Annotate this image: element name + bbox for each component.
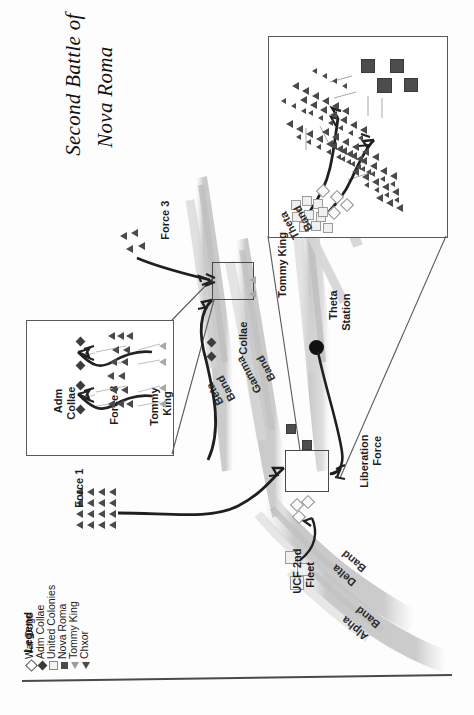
inset-right-marker-chxor xyxy=(350,152,357,160)
force-1-marker xyxy=(98,510,105,518)
liberation-force-label-line2: Force xyxy=(358,436,396,478)
inset-left-marker-tommy-king xyxy=(159,400,166,408)
map-page: Second Battle of Nova Roma Adm Collae Fo… xyxy=(0,0,474,715)
inset-right-marker-chxor xyxy=(348,130,353,136)
inset-right-marker-chxor xyxy=(301,108,306,114)
inset-right-marker-chxor xyxy=(332,102,339,110)
force-1-marker xyxy=(109,521,116,529)
inset-left-marker-force3 xyxy=(121,386,128,394)
inset-right-marker-chxor xyxy=(342,138,349,146)
force-1-marker xyxy=(109,510,116,518)
inset-right-marker-chxor xyxy=(328,120,333,126)
inset-right-marker-chxor xyxy=(382,183,389,191)
inset-right-marker-chxor xyxy=(380,167,387,175)
inset-right-marker-chxor xyxy=(340,116,347,124)
inset-right-marker-chxor xyxy=(390,181,395,187)
force-1-marker xyxy=(98,499,105,507)
collae-marker xyxy=(207,338,217,348)
theta-station-marker xyxy=(309,340,324,355)
inset-right-marker-chxor xyxy=(330,142,337,150)
inset-right-marker-chxor xyxy=(342,83,347,89)
inset-right-marker-chxor xyxy=(358,135,363,141)
inset-right-marker-nova-roma xyxy=(404,78,418,92)
theta-station-text-2: Station xyxy=(340,293,352,330)
inset-right-marker-chxor xyxy=(306,139,311,145)
inset-left-marker-force3 xyxy=(117,400,124,408)
inset-left-marker-force3 xyxy=(110,358,117,366)
inset-left-marker-force3 xyxy=(110,386,117,394)
inset-right-marker-chxor xyxy=(372,178,379,186)
force-3-marker xyxy=(120,232,127,240)
inset-right-marker-chxor xyxy=(312,68,317,74)
force-1-marker xyxy=(76,521,83,529)
inset-right-marker-nova-roma xyxy=(361,59,375,73)
inset-right-marker-nova-roma xyxy=(377,78,392,93)
force-1-marker xyxy=(109,499,116,507)
inset-left-marker-force3 xyxy=(117,332,124,340)
page-title-line2: Nova Roma xyxy=(93,47,117,148)
inset-right-marker-chxor xyxy=(384,192,389,198)
inset-right-marker-chxor xyxy=(386,199,393,207)
engagement-box-lower xyxy=(285,450,329,492)
inset-right-marker-chxor xyxy=(281,98,286,104)
war-dogs-marker xyxy=(292,510,306,524)
inset-right-marker-chxor xyxy=(332,133,339,141)
force-1-marker xyxy=(87,521,94,529)
inset-right-marker-chxor xyxy=(300,96,307,104)
inset-right-marker-chxor xyxy=(352,143,359,151)
inset-right-marker-chxor xyxy=(292,82,299,90)
inset-right-marker-chxor xyxy=(362,173,369,181)
inset-left-marker-tommy-king xyxy=(159,342,166,350)
collae-marker xyxy=(207,352,217,362)
inset-right-marker-chxor xyxy=(374,187,379,193)
inset-right-marker-chxor xyxy=(322,128,329,136)
inset-right-marker-chxor xyxy=(350,161,355,167)
inset-right-marker-chxor xyxy=(316,135,323,143)
inset-right-marker-nova-roma xyxy=(390,59,404,73)
legend-item-label: Chxor xyxy=(78,631,90,659)
inset-right-marker-chxor xyxy=(296,134,301,140)
inset-left-marker-force3 xyxy=(107,372,114,380)
inset-right-marker-chxor xyxy=(296,125,303,133)
inset-left-marker-force3 xyxy=(126,332,133,340)
theta-station-label-line2: Station xyxy=(327,293,365,343)
inset-right-marker-chxor xyxy=(396,204,403,212)
filled-triangle-icon xyxy=(79,659,91,672)
inset-right-marker-chxor xyxy=(340,147,347,155)
theta-band-text-2: Band xyxy=(291,204,315,234)
force-1-label: Force 1 xyxy=(60,469,98,520)
inset-right-marker-chxor xyxy=(320,106,327,114)
inset-right-marker-chxor xyxy=(362,148,369,156)
inset-right-marker-chxor xyxy=(394,197,399,203)
inset-right-marker-chxor xyxy=(360,166,365,172)
inset-right-marker-chxor xyxy=(390,172,397,180)
inset-right-marker-chxor xyxy=(322,73,327,79)
inset-right-marker-chxor xyxy=(312,92,319,100)
force-1-marker xyxy=(109,488,116,496)
inset-left-marker-force3 xyxy=(121,358,128,366)
inset-right-marker-chxor xyxy=(286,120,293,128)
nova-roma-marker xyxy=(302,440,312,450)
inset-right-marker-chxor xyxy=(340,156,345,162)
gamma-band-text-2: Band xyxy=(254,354,278,384)
inset-right-marker-chxor xyxy=(330,111,337,119)
liberation-force-text-2: Force xyxy=(371,436,383,466)
inset-right-marker-chxor xyxy=(291,103,296,109)
inset-left-marker-tommy-king xyxy=(159,358,166,366)
inset-left-marker-force3 xyxy=(112,346,119,354)
inset-right-marker-chxor xyxy=(352,168,359,176)
inset-left-marker-force3 xyxy=(108,400,115,408)
alpha-band-text-2: Band xyxy=(353,604,382,631)
inset-right-marker-chxor xyxy=(342,107,349,115)
inset-right-marker-chxor xyxy=(372,153,379,161)
page-title-second: Nova Roma xyxy=(66,47,145,170)
inset-right-marker-chxor xyxy=(370,162,377,170)
force-3-label: Force 3 xyxy=(146,201,184,252)
force-1-marker xyxy=(98,521,105,529)
legend: Legend War DogsAdm CollaeUnited Colonies… xyxy=(8,560,34,678)
delta-band-text-2: Band xyxy=(339,548,368,575)
inset-right-marker-chxor xyxy=(392,188,399,196)
force-1-marker xyxy=(98,488,105,496)
nova-roma-marker xyxy=(286,424,296,434)
inset-right-marker-chxor xyxy=(310,101,317,109)
